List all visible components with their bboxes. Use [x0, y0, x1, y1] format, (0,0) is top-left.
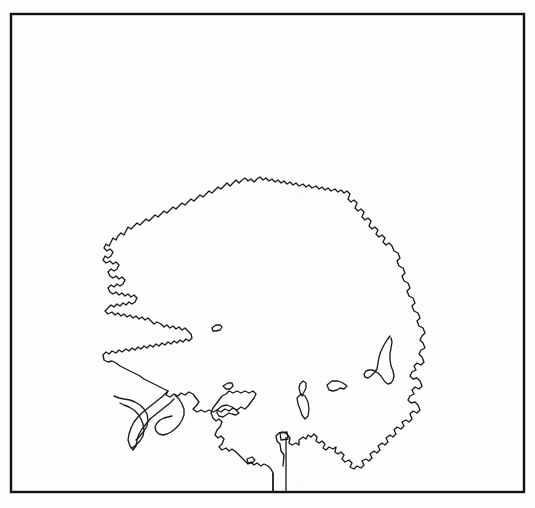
mid-west-small-island: [223, 383, 233, 389]
south-central-long-island: [297, 394, 309, 419]
southwest-lobe: [155, 395, 184, 435]
east-inlet-peninsula: [364, 336, 394, 384]
mainland-coastline: [103, 177, 425, 492]
border-frame: [11, 14, 524, 492]
south-central-sliver-island: [299, 381, 306, 396]
coastline-features-layer: [103, 177, 425, 492]
central-small-island: [212, 325, 222, 331]
figure-root: Coastline outline map Black line-drawing…: [0, 0, 535, 508]
south-east-island: [327, 381, 347, 391]
northwest-fjord-peninsula: [128, 391, 174, 450]
coastline-map-svg: Coastline outline map Black line-drawing…: [0, 0, 535, 508]
west-inner-island-arc: [114, 396, 148, 440]
